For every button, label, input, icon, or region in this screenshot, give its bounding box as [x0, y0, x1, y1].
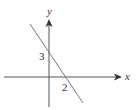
y-axis-label: y: [46, 5, 52, 17]
y-intercept-label: 3: [39, 50, 45, 62]
x-axis-label: x: [124, 70, 130, 82]
graph-canvas: y x 3 2: [0, 0, 137, 110]
coordinate-plane-figure: y x 3 2: [0, 0, 137, 110]
graph-line: [30, 24, 83, 103]
x-intercept-label: 2: [62, 81, 68, 93]
